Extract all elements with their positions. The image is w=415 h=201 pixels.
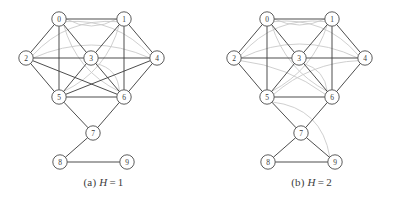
panel-b-caption: (b)H=2 [208,176,415,188]
node-circle-2 [19,51,33,65]
figure-container: 0123456789 (a)H=1 0123456789 (b)H=2 [0,0,415,201]
graph-edge-4-6 [337,63,361,91]
graph-edge-0-3 [64,25,87,53]
node-group: 0123456789 [227,12,372,169]
graph-edge-4-5 [66,61,151,95]
graph-node-4[interactable]: 4 [150,51,164,65]
node-circle-7 [86,126,100,140]
panel-a-caption-variable: H [96,176,107,188]
graph-edge-1-4 [129,24,153,52]
panel-a-caption-value: 1 [118,176,124,188]
edge-group-dark [239,19,361,162]
graph-edge-7-8 [65,138,87,157]
graph-node-2[interactable]: 2 [19,51,33,65]
graph-drawing-b: 0123456789 [208,0,415,178]
graph-node-3[interactable]: 3 [292,51,306,65]
graph-node-0[interactable]: 0 [52,12,66,26]
panel-a-caption-tag: (a) [83,176,96,188]
graph-node-8[interactable]: 8 [261,155,275,169]
node-circle-2 [227,51,241,65]
graph-edge-7-8 [273,138,295,157]
panel-a-caption: (a)H=1 [0,176,207,188]
graph-edge-1-3 [96,24,120,52]
node-circle-4 [150,51,164,65]
graph-edge-5-7 [272,102,296,128]
panel-a-caption-equals: = [107,176,117,188]
graph-node-4[interactable]: 4 [358,51,372,65]
node-circle-1 [117,12,131,26]
graph-node-7[interactable]: 7 [86,126,100,140]
graph-edge-0-2 [31,24,55,52]
node-circle-1 [325,12,339,26]
panel-b-caption-value: 2 [326,176,332,188]
graph-node-2[interactable]: 2 [227,51,241,65]
graph-node-6[interactable]: 6 [117,90,131,104]
node-circle-3 [292,51,306,65]
figure-panel-b: 0123456789 (b)H=2 [208,0,415,201]
node-circle-8 [261,155,275,169]
graph-edge-7-9 [306,138,329,158]
graph-edge-2-5 [239,63,263,91]
graph-node-8[interactable]: 8 [53,155,67,169]
node-circle-6 [117,90,131,104]
node-circle-8 [53,155,67,169]
graph-node-9[interactable]: 9 [120,155,134,169]
node-group: 0123456789 [19,12,164,169]
graph-node-7[interactable]: 7 [294,126,308,140]
graph-edge-0-3 [272,25,295,53]
graph-edge-1-3 [304,24,328,52]
panel-b-caption-tag: (b) [291,176,304,188]
panel-b-caption-variable: H [305,176,316,188]
graph-edge-5-7 [64,102,88,128]
graph-node-1[interactable]: 1 [325,12,339,26]
node-circle-3 [84,51,98,65]
graph-node-5[interactable]: 5 [260,90,274,104]
graph-node-3[interactable]: 3 [84,51,98,65]
node-circle-5 [260,90,274,104]
graph-node-5[interactable]: 5 [52,90,66,104]
graph-node-0[interactable]: 0 [260,12,274,26]
panel-b-caption-equals: = [316,176,326,188]
node-circle-6 [325,90,339,104]
graph-node-6[interactable]: 6 [325,90,339,104]
node-circle-7 [294,126,308,140]
node-circle-5 [52,90,66,104]
graph-drawing-a: 0123456789 [0,0,207,178]
figure-panel-a: 0123456789 (a)H=1 [0,0,207,201]
graph-node-1[interactable]: 1 [117,12,131,26]
node-circle-0 [52,12,66,26]
graph-edge-6-7 [98,102,120,127]
node-circle-4 [358,51,372,65]
node-circle-9 [328,155,342,169]
node-circle-0 [260,12,274,26]
node-circle-9 [120,155,134,169]
graph-node-9[interactable]: 9 [328,155,342,169]
